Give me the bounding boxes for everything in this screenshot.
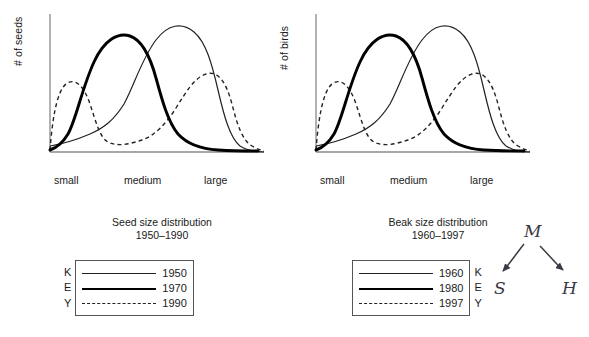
legend-block-seed: Seed size distribution 1950–1990 K E Y 1… <box>48 216 298 242</box>
x-tick-small: small <box>54 174 79 186</box>
plot-area-beak <box>308 12 532 170</box>
legend-box-seed: 1950 1970 1990 <box>75 260 193 316</box>
key-row-seed: K E Y 1950 1970 1990 <box>60 260 194 316</box>
annotation-arrow-left <box>503 244 524 271</box>
key-letter-y: Y <box>474 296 481 312</box>
legend-swatch-thick-line-icon <box>82 283 156 293</box>
plot-svg-seed <box>42 12 266 170</box>
legend-label-1980: 1980 <box>439 282 463 294</box>
x-tick-large: large <box>204 174 227 186</box>
x-tick-large: large <box>470 174 493 186</box>
legend-entry-1960: 1960 <box>359 265 463 280</box>
key-letter-y: Y <box>64 296 71 312</box>
legend-label-1950: 1950 <box>162 267 186 279</box>
legend-label-1960: 1960 <box>439 267 463 279</box>
y-axis-label-birds: # of birds <box>278 0 290 70</box>
key-letter-e: E <box>474 280 481 296</box>
key-letter-e: E <box>64 280 71 296</box>
legend-swatch-thin-line-icon <box>359 268 433 278</box>
figure-root: # of seeds small medium large # of birds <box>0 0 589 337</box>
x-axis-ticks-seed: small medium large <box>42 174 266 192</box>
legend-label-1970: 1970 <box>162 282 186 294</box>
legend-entry-1997: 1997 <box>359 295 463 310</box>
annotation-svg: M S H <box>486 218 586 304</box>
caption-seed-years: 1950–1990 <box>62 229 262 242</box>
key-letter-k: K <box>474 265 481 281</box>
annotation-label-left: S <box>494 278 506 298</box>
legend-box-beak: 1960 1980 1997 <box>352 260 470 316</box>
key-letters-beak: K E Y <box>470 260 485 316</box>
y-axis-label-seeds: # of seeds <box>12 0 24 66</box>
legend-swatch-thin-line-icon <box>82 268 156 278</box>
legend-entry-1990: 1990 <box>82 295 186 310</box>
x-tick-small: small <box>320 174 345 186</box>
key-row-beak: 1960 1980 1997 K E Y <box>352 260 486 316</box>
key-letters-seed: K E Y <box>60 260 75 316</box>
legend-label-1990: 1990 <box>162 297 186 309</box>
legend-swatch-thick-line-icon <box>359 283 433 293</box>
chart-beak-size: # of birds small medium large <box>272 8 540 200</box>
chart-seed-size: # of seeds small medium large <box>6 8 274 200</box>
x-tick-medium: medium <box>390 174 427 186</box>
key-letter-k: K <box>64 265 71 281</box>
handwritten-annotation: M S H <box>486 218 586 304</box>
legend-swatch-dashed-line-icon <box>82 298 156 308</box>
caption-seed: Seed size distribution 1950–1990 <box>62 216 262 242</box>
x-tick-medium: medium <box>124 174 161 186</box>
legend-entry-1970: 1970 <box>82 280 186 295</box>
annotation-label-top: M <box>523 221 542 241</box>
plot-area-seed <box>42 12 266 170</box>
legend-entry-1980: 1980 <box>359 280 463 295</box>
caption-seed-title: Seed size distribution <box>62 216 262 229</box>
legend-swatch-dashed-line-icon <box>359 298 433 308</box>
annotation-arrow-right <box>540 246 563 270</box>
annotation-label-right: H <box>561 278 578 298</box>
x-axis-ticks-beak: small medium large <box>308 174 532 192</box>
plot-svg-beak <box>308 12 532 170</box>
legend-label-1997: 1997 <box>439 297 463 309</box>
legend-entry-1950: 1950 <box>82 265 186 280</box>
